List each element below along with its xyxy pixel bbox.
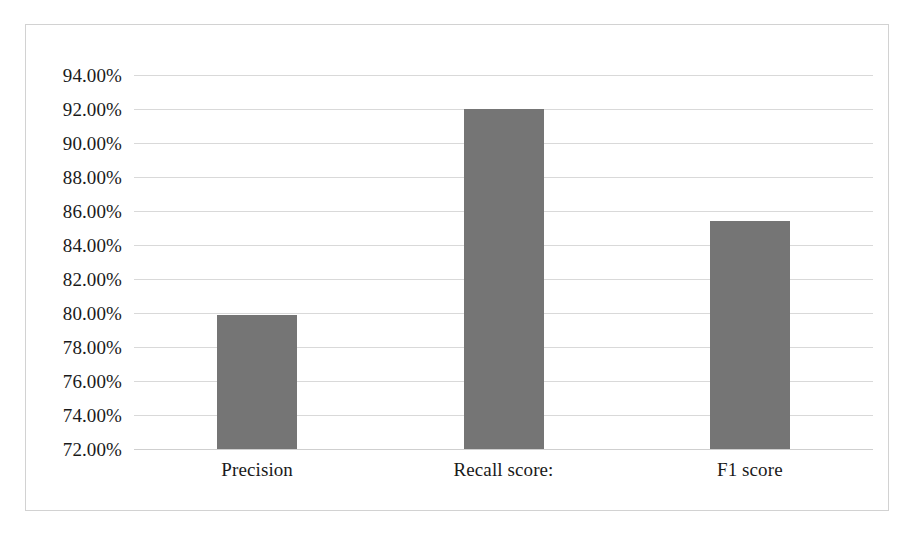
chart-frame: 94.00%92.00%90.00%88.00%86.00%84.00%82.0… [25, 24, 889, 511]
y-axis-tick-label: 82.00% [63, 270, 122, 289]
x-axis-category-label: F1 score [717, 457, 783, 483]
bar[interactable] [710, 221, 790, 449]
x-axis-category-labels: PrecisionRecall score:F1 score [134, 457, 873, 497]
y-axis-tick-labels: 94.00%92.00%90.00%88.00%86.00%84.00%82.0… [26, 75, 130, 449]
bar[interactable] [217, 315, 297, 449]
bar[interactable] [464, 109, 544, 449]
gridline [134, 75, 873, 76]
axis-baseline [134, 449, 873, 450]
x-axis-category-label: Recall score: [454, 457, 554, 483]
x-axis-category-label: Precision [221, 457, 293, 483]
y-axis-tick-label: 84.00% [63, 236, 122, 255]
y-axis-tick-label: 76.00% [63, 372, 122, 391]
y-axis-tick-label: 74.00% [63, 406, 122, 425]
y-axis-tick-label: 94.00% [63, 66, 122, 85]
y-axis-tick-label: 90.00% [63, 134, 122, 153]
y-axis-tick-label: 78.00% [63, 338, 122, 357]
y-axis-tick-label: 80.00% [63, 304, 122, 323]
y-axis-tick-label: 92.00% [63, 100, 122, 119]
plot-area [134, 75, 873, 449]
y-axis-tick-label: 86.00% [63, 202, 122, 221]
y-axis-tick-label: 72.00% [63, 440, 122, 459]
y-axis-tick-label: 88.00% [63, 168, 122, 187]
